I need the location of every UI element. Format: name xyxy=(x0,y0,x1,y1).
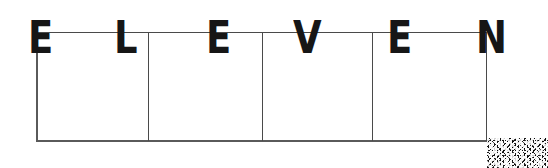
heading-letter-4: V xyxy=(293,16,322,60)
table-column-divider-1 xyxy=(148,32,149,141)
form-table-grid xyxy=(36,32,487,141)
scan-noise-artifact xyxy=(487,138,548,168)
table-column-divider-3 xyxy=(372,32,373,141)
heading-letter-2: L xyxy=(114,16,138,60)
heading-letter-6: N xyxy=(476,16,507,60)
heading-letter-5: E xyxy=(387,16,412,60)
scanned-page: E L E V E N xyxy=(0,0,548,168)
table-column-divider-2 xyxy=(262,32,263,141)
heading-letter-1: E xyxy=(28,16,53,60)
heading-letter-3: E xyxy=(206,16,231,60)
